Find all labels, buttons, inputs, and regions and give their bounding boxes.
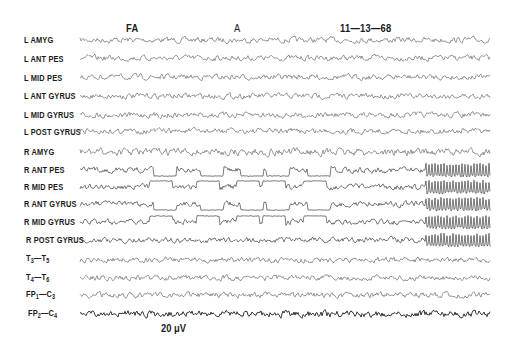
trace-l-mid-pes (80, 73, 490, 80)
trace-l-amyg (80, 36, 490, 44)
trace-r-ant-gyrus (80, 197, 490, 211)
trace-r-amyg (80, 147, 490, 157)
trace-r-post-gyrus (80, 233, 490, 247)
trace-l-ant-pes (80, 54, 490, 61)
trace-l-post-gyrus (80, 127, 490, 135)
trace-l-ant-gyrus (80, 92, 490, 99)
trace-t4-t6 (80, 274, 490, 281)
eeg-traces (0, 0, 508, 355)
trace-fp2-c4 (80, 310, 490, 319)
calibration-label: 20 μV (161, 322, 186, 334)
trace-r-ant-pes (80, 163, 490, 177)
trace-r-mid-pes (80, 180, 490, 194)
trace-fp1-c3 (80, 291, 490, 298)
trace-t3-t5 (80, 257, 490, 263)
trace-r-mid-gyrus (80, 216, 490, 230)
trace-l-mid-gyrus (80, 112, 490, 119)
